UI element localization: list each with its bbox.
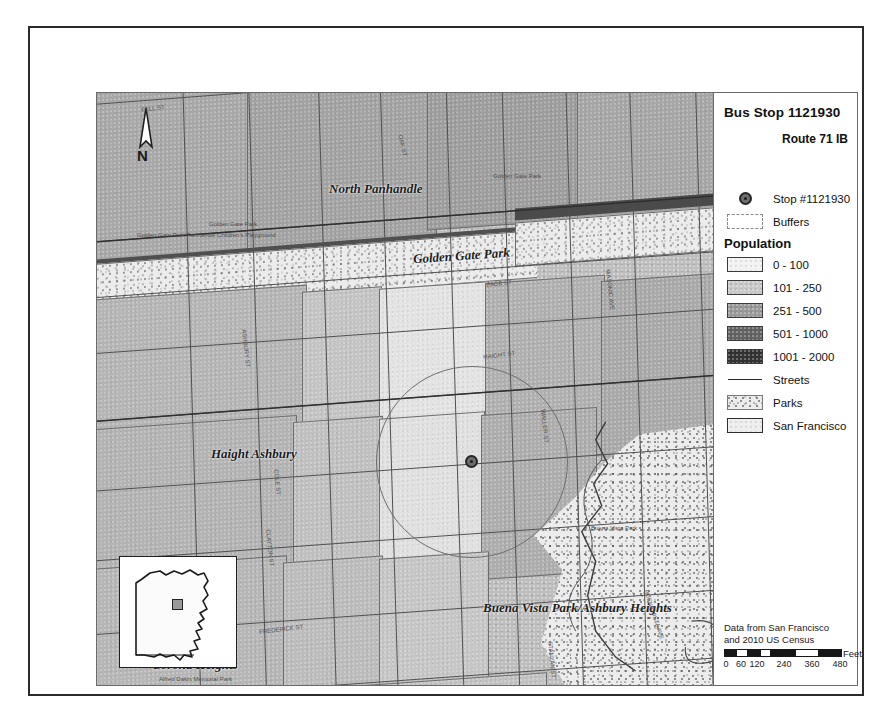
credits-line-2: and 2010 US Census [724, 634, 852, 646]
population-swatch [724, 326, 766, 341]
buffer-outline-icon [727, 214, 763, 229]
legend-label-population-4: 1001 - 2000 [766, 351, 834, 363]
legend-panel: Bus Stop 1121930 Route 71 IB Stop #11219… [713, 92, 858, 686]
locator-box [172, 599, 183, 610]
poster-frame: N North Panhandle Golden Gate Park Haigh… [28, 26, 864, 696]
population-color-box [727, 280, 763, 295]
population-color-box [727, 326, 763, 341]
minor-label-ggp-panhandle-playground: Golden Gate Park Panhandle Children's Pl… [137, 232, 276, 238]
scale-tick: 60 [736, 659, 746, 669]
street-line-icon [728, 379, 762, 380]
parks-swatch [724, 395, 766, 410]
streets-swatch [724, 379, 766, 380]
population-swatch [724, 349, 766, 364]
legend-label-population-2: 251 - 500 [766, 305, 822, 317]
stop-symbol-swatch [724, 192, 766, 205]
legend-label-population-1: 101 - 250 [766, 282, 822, 294]
minor-label-golden-gate-park: Golden Gate Park [209, 221, 257, 227]
bus-stop-icon [739, 192, 752, 205]
scale-segment [795, 649, 819, 657]
scale-tick: 240 [776, 659, 791, 669]
buffers-swatch [724, 214, 766, 229]
scale-segment [736, 649, 748, 657]
san-francisco-outline [120, 557, 236, 667]
legend-header-population: Population [724, 236, 848, 251]
scale-tick-labels: 0 60 120 240 360 480 [724, 659, 856, 671]
legend-row-san-francisco[interactable]: San Francisco [724, 415, 848, 436]
legend-label-streets: Streets [766, 374, 809, 386]
locator-inset-map[interactable] [119, 556, 237, 668]
legend-label-stop: Stop #1121930 [766, 193, 850, 205]
legend-row-population-2[interactable]: 251 - 500 [724, 300, 848, 321]
legend-row-population-0[interactable]: 0 - 100 [724, 254, 848, 275]
scale-segment [760, 649, 771, 657]
scale-unit-label: Feet [843, 648, 862, 659]
minor-label-buena-vista-park: Buena Vista Park [591, 525, 637, 531]
map-label-haight-ashbury: Haight Ashbury [211, 446, 297, 462]
census-tract-polygon [379, 551, 489, 686]
population-color-box [727, 349, 763, 364]
legend-row-population-3[interactable]: 501 - 1000 [724, 323, 848, 344]
legend-row-stop[interactable]: Stop #1121930 [724, 188, 848, 209]
legend-label-population-3: 501 - 1000 [766, 328, 828, 340]
scale-segment [748, 649, 760, 657]
map-page: N North Panhandle Golden Gate Park Haigh… [0, 0, 894, 725]
scale-segment [819, 649, 842, 657]
scale-tick: 120 [749, 659, 764, 669]
scale-tick: 480 [832, 659, 847, 669]
legend-title: Bus Stop 1121930 [724, 105, 848, 120]
population-swatch [724, 257, 766, 272]
legend-row-buffers[interactable]: Buffers [724, 211, 848, 232]
scale-tick: 0 [723, 659, 728, 669]
population-color-box [727, 257, 763, 272]
north-arrow: N [129, 105, 163, 167]
city-swatch [724, 418, 766, 433]
legend-label-population-0: 0 - 100 [766, 259, 809, 271]
city-color-box [727, 418, 763, 433]
credits-block: Data from San Francisco and 2010 US Cens… [724, 622, 852, 671]
census-tract-polygon [283, 556, 383, 686]
population-color-box [727, 303, 763, 318]
legend-label-buffers: Buffers [766, 216, 809, 228]
legend-subtitle: Route 71 IB [724, 132, 848, 146]
scale-segment [771, 649, 795, 657]
population-swatch [724, 280, 766, 295]
legend-row-population-1[interactable]: 101 - 250 [724, 277, 848, 298]
scale-tick: 360 [804, 659, 819, 669]
minor-label-golden-gate-park-east: Golden Gate Park [493, 173, 541, 179]
map-label-buena-vista-park-ashbury-heights: Buena Vista Park/Ashbury Heights [483, 600, 672, 616]
minor-label-memorial-park: Alfred Dakin Memorial Park [159, 676, 232, 682]
legend-row-streets[interactable]: Streets [724, 369, 848, 390]
map-label-north-panhandle: North Panhandle [329, 181, 423, 197]
legend-row-parks[interactable]: Parks [724, 392, 848, 413]
north-arrow-label: N [137, 147, 148, 164]
bus-stop-marker[interactable] [465, 455, 478, 468]
legend-entries: Stop #1121930 Buffers Population 0 - 100 [724, 188, 848, 436]
legend-label-parks: Parks [766, 397, 802, 409]
legend-label-san-francisco: San Francisco [766, 420, 847, 432]
scale-segment [724, 649, 736, 657]
population-swatch [724, 303, 766, 318]
credits-line-1: Data from San Francisco [724, 622, 852, 634]
parks-texture-icon [727, 395, 763, 410]
scale-bar: Feet [724, 649, 842, 658]
legend-row-population-4[interactable]: 1001 - 2000 [724, 346, 848, 367]
